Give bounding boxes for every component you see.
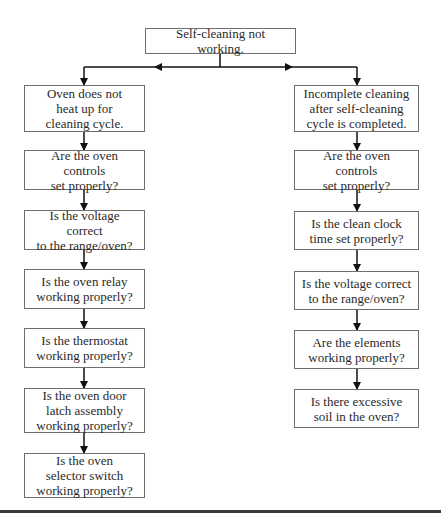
bottom-rule <box>0 510 441 513</box>
left-step-3-node: Is the oven relay working properly? <box>24 269 145 309</box>
node-label: Are the oven controls set properly? <box>31 148 138 193</box>
node-label: Are the oven controls set properly? <box>301 148 412 193</box>
node-label: Are the elements working properly? <box>308 335 404 365</box>
root-node: Self-cleaning not working. <box>145 28 296 54</box>
connector-lines <box>0 0 441 517</box>
node-label: Is the clean clock time set properly? <box>310 216 404 246</box>
right-step-4-node: Are the elements working properly? <box>294 330 419 369</box>
right-step-3-node: Is the voltage correct to the range/oven… <box>294 271 419 310</box>
node-label: Is the oven relay working properly? <box>36 274 132 304</box>
right-step-5-node: Is there excessive soil in the oven? <box>294 389 419 428</box>
node-label: Is the voltage correct to the range/oven… <box>302 276 411 306</box>
left-step-5-node: Is the oven door latch assembly working … <box>24 388 145 433</box>
node-label: Incomplete cleaning after self-cleaning … <box>304 86 410 131</box>
node-label: Is there excessive soil in the oven? <box>311 394 403 424</box>
right-branch-title-node: Incomplete cleaning after self-cleaning … <box>294 85 419 132</box>
node-label: Is the oven door latch assembly working … <box>36 388 132 433</box>
right-step-1-node: Are the oven controls set properly? <box>294 150 419 190</box>
left-step-1-node: Are the oven controls set properly? <box>24 150 145 190</box>
root-node-label: Self-cleaning not working. <box>152 26 289 56</box>
node-label: Is the oven selector switch working prop… <box>36 453 132 498</box>
left-step-2-node: Is the voltage correct to the range/oven… <box>24 210 145 250</box>
node-label: Oven does not heat up for cleaning cycle… <box>46 86 124 131</box>
left-step-6-node: Is the oven selector switch working prop… <box>24 453 145 498</box>
right-step-2-node: Is the clean clock time set properly? <box>294 211 419 250</box>
node-label: Is the thermostat working properly? <box>36 333 132 363</box>
left-branch-title-node: Oven does not heat up for cleaning cycle… <box>24 85 145 132</box>
node-label: Is the voltage correct to the range/oven… <box>31 208 138 253</box>
left-step-4-node: Is the thermostat working properly? <box>24 328 145 368</box>
